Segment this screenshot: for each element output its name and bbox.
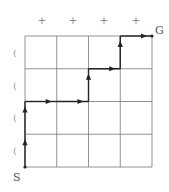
top-marker: + [132,16,140,26]
goal-label: G [155,25,164,36]
arrowhead-icon [141,33,147,38]
grid-svg [0,0,169,192]
top-marker: + [38,16,46,26]
path [22,33,152,167]
goal-node [150,34,153,37]
side-marker: ( [13,48,17,58]
arrowhead-icon [118,41,123,47]
side-marker: ( [13,113,17,123]
start-node [23,165,26,168]
arrowhead-icon [78,99,84,104]
arrowhead-icon [22,107,27,113]
arrowhead-icon [109,66,115,71]
arrowhead-icon [46,99,52,104]
side-marker: ( [13,81,17,91]
top-marker: + [100,16,108,26]
grid-path-diagram: + + + + ( ( ( ( S G [0,0,169,192]
arrowhead-icon [86,74,91,80]
start-label: S [13,172,21,183]
side-marker: ( [13,146,17,156]
top-marker: + [69,16,77,26]
arrowhead-icon [22,139,27,145]
